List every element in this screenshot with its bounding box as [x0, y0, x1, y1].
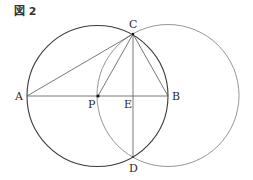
segment-cb: [133, 34, 168, 96]
segment-ac: [27, 34, 133, 96]
geometry-figure: 図 2 A B C D E P: [0, 0, 253, 180]
label-p: P: [88, 98, 96, 111]
figure-title: 図 2: [14, 4, 36, 18]
label-b: B: [172, 90, 180, 103]
label-c: C: [129, 18, 137, 31]
point-c-dot: [132, 33, 135, 36]
label-e: E: [124, 98, 132, 111]
point-d-dot: [132, 156, 134, 158]
label-d: D: [129, 162, 138, 175]
point-p-dot: [96, 94, 99, 97]
segment-cp: [98, 34, 133, 96]
label-a: A: [14, 90, 24, 103]
